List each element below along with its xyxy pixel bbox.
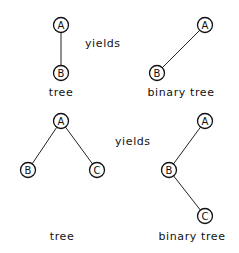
binary-tree-figure: ABbinary tree (147, 18, 214, 100)
tree-to-binary-tree-diagram: ABtreeABbinary treeyieldsABCtreeABCbinar… (0, 0, 239, 253)
yields-label: yields (85, 37, 121, 50)
node-label: B (58, 68, 65, 79)
node-B: B (162, 163, 177, 178)
node-label: A (58, 116, 65, 127)
node-A: A (54, 18, 69, 33)
binary-tree-caption: binary tree (147, 86, 214, 99)
node-label: C (94, 165, 101, 176)
binary-tree-caption: binary tree (158, 230, 225, 243)
node-label: A (58, 20, 65, 31)
yields-label: yields (115, 135, 151, 148)
edge-A-B (32, 127, 57, 164)
node-label: C (202, 211, 209, 222)
node-B: B (150, 66, 165, 81)
node-B: B (21, 163, 36, 178)
edge-A-B (162, 30, 199, 67)
node-label: B (166, 165, 173, 176)
node-label: A (202, 116, 209, 127)
node-B: B (54, 66, 69, 81)
binary-tree-figure: ABCbinary tree (158, 114, 225, 244)
node-label: B (154, 68, 161, 79)
node-A: A (198, 18, 213, 33)
node-A: A (54, 114, 69, 129)
node-C: C (198, 209, 213, 224)
example-2: ABCtreeABCbinary treeyields (21, 114, 226, 244)
edge-B-C (174, 176, 201, 210)
example-1: ABtreeABbinary treeyields (49, 18, 215, 100)
tree-figure: ABtree (49, 18, 74, 100)
node-C: C (90, 163, 105, 178)
edge-A-B (173, 127, 200, 164)
node-label: B (25, 165, 32, 176)
edge-A-C (65, 127, 92, 164)
tree-figure: ABCtree (21, 114, 105, 244)
tree-caption: tree (49, 86, 74, 99)
node-A: A (198, 114, 213, 129)
tree-caption: tree (50, 230, 75, 243)
node-label: A (202, 20, 209, 31)
